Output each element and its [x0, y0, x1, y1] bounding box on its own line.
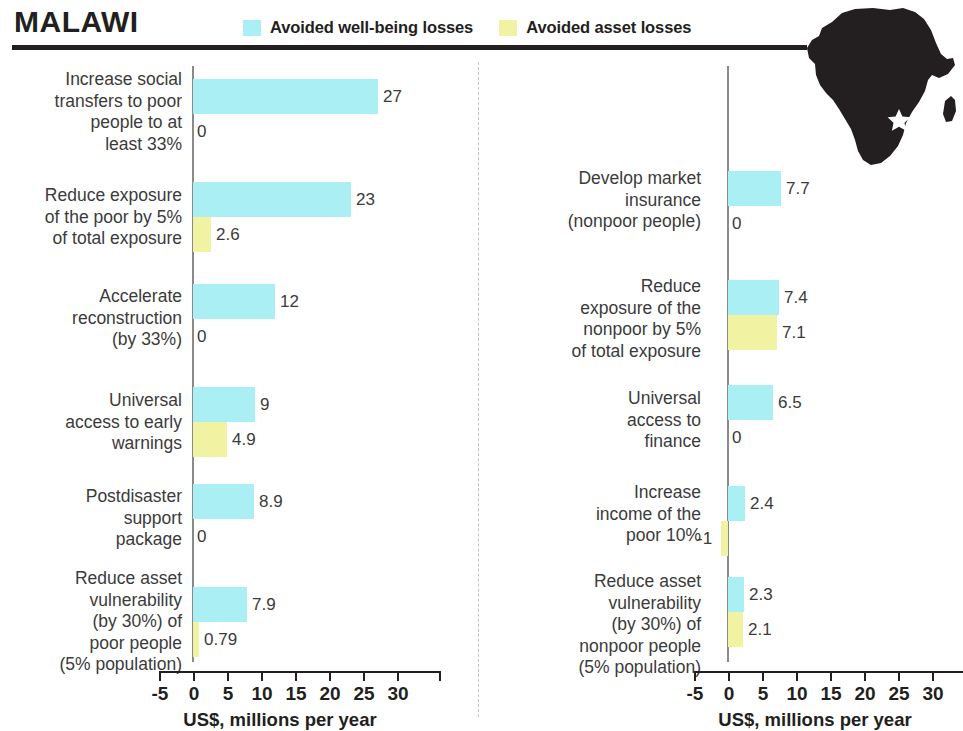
bar-wellbeing	[193, 79, 378, 114]
axis-tick-label: -5	[152, 683, 169, 705]
category-label: Reduce exposure of the nonpoor by 5% of …	[572, 276, 701, 362]
axis-tick	[159, 671, 161, 681]
axis-tick-label: 5	[758, 683, 769, 705]
axis-tick-label: 20	[854, 683, 875, 705]
bar-asset	[193, 622, 199, 657]
category-label: Develop market insurance (nonpoor people…	[568, 168, 701, 233]
bar-value-wellbeing: 2.3	[749, 577, 773, 612]
category-label: Universal access to early warnings	[65, 390, 182, 455]
bar-wellbeing	[728, 171, 781, 206]
bar-asset	[728, 315, 777, 350]
bar-value-wellbeing: 6.5	[778, 385, 802, 420]
axis-tick	[329, 671, 331, 681]
nonpoor-people-plot-area: Develop market insurance (nonpoor people…	[485, 58, 963, 668]
nonpoor-people-panel: Develop market insurance (nonpoor people…	[485, 58, 963, 725]
category-label: Increase social transfers to poor people…	[55, 69, 182, 155]
legend-swatch-asset-icon	[499, 20, 517, 36]
axis-tick-label: -5	[687, 683, 704, 705]
bar-wellbeing	[193, 284, 275, 319]
axis-tick-label: 15	[820, 683, 841, 705]
bar-value-asset: 0	[197, 519, 206, 554]
zero-axis-line-left	[192, 66, 194, 662]
x-axis-left: -5 0 5 10 15 20 25 30 US$, millions per …	[0, 671, 478, 731]
axis-tick-label: 30	[387, 683, 408, 705]
chart-legend: Avoided well-being losses Avoided asset …	[243, 18, 691, 37]
x-axis-right: -5 0 5 10 15 20 25 30 US$, millions per …	[485, 671, 963, 731]
poor-people-plot-area: Increase social transfers to poor people…	[0, 58, 478, 668]
bar-value-wellbeing: 7.9	[252, 587, 276, 622]
bar-wellbeing	[728, 385, 773, 420]
bar-value-asset: 0	[197, 319, 206, 354]
bar-value-asset: 0	[732, 420, 741, 455]
bar-value-asset: 4.9	[232, 422, 256, 457]
bar-value-wellbeing: 23	[356, 182, 375, 217]
bar-value-wellbeing: 2.4	[750, 486, 774, 521]
axis-tick	[295, 671, 297, 681]
axis-tick-label: 5	[223, 683, 234, 705]
axis-tick	[363, 671, 365, 681]
bar-asset-negative	[721, 521, 728, 556]
axis-tick	[932, 671, 934, 681]
axis-tick	[830, 671, 832, 681]
zero-axis-line-right	[727, 66, 729, 662]
bar-value-wellbeing: 9	[260, 387, 269, 422]
axis-tick	[227, 671, 229, 681]
category-label: Reduce exposure of the poor by 5% of tot…	[45, 185, 182, 250]
header-divider-rule	[12, 45, 807, 50]
legend-label-asset: Avoided asset losses	[526, 18, 691, 37]
axis-tick	[762, 671, 764, 681]
axis-tick-label: 20	[319, 683, 340, 705]
bar-value-wellbeing: 8.9	[259, 484, 283, 519]
bar-value-asset: 2.1	[748, 612, 772, 647]
legend-swatch-wellbeing-icon	[243, 20, 261, 36]
legend-label-wellbeing: Avoided well-being losses	[270, 18, 473, 37]
axis-tick	[439, 671, 441, 681]
bar-wellbeing	[728, 577, 744, 612]
bar-asset	[193, 422, 227, 457]
axis-tick-label: 15	[285, 683, 306, 705]
bar-value-wellbeing: 7.4	[784, 280, 808, 315]
bar-asset	[193, 217, 211, 252]
poor-people-panel: Increase social transfers to poor people…	[0, 58, 478, 725]
category-label: Reduce asset vulnerability (by 30%) of n…	[578, 571, 701, 679]
page-title: MALAWI	[14, 5, 139, 39]
axis-tick	[898, 671, 900, 681]
axis-tick	[864, 671, 866, 681]
poor-people-category-labels: Increase social transfers to poor people…	[6, 58, 182, 668]
axis-tick-label: 25	[353, 683, 374, 705]
axis-tick-label: 0	[189, 683, 200, 705]
axis-tick-label: 0	[724, 683, 735, 705]
category-label: Universal access to finance	[627, 388, 701, 453]
bar-wellbeing	[193, 387, 255, 422]
bar-value-wellbeing: 12	[280, 284, 299, 319]
axis-tick	[261, 671, 263, 681]
axis-tick	[193, 671, 195, 681]
axis-tick	[694, 671, 696, 681]
bar-value-wellbeing: 7.7	[786, 171, 810, 206]
x-axis-title: US$, millions per year	[718, 709, 911, 731]
axis-tick	[796, 671, 798, 681]
axis-tick-label: 10	[786, 683, 807, 705]
panel-divider	[478, 62, 479, 717]
axis-tick-label: 25	[888, 683, 909, 705]
bar-wellbeing	[728, 486, 745, 521]
bar-wellbeing	[728, 280, 779, 315]
bar-value-asset: 0.79	[204, 622, 237, 657]
bar-wellbeing	[193, 484, 254, 519]
legend-item-wellbeing: Avoided well-being losses	[243, 18, 473, 37]
category-label: Accelerate reconstruction (by 33%)	[72, 286, 182, 351]
axis-tick	[397, 671, 399, 681]
axis-tick	[728, 671, 730, 681]
category-label: Increase income of the poor 10%	[596, 482, 701, 547]
x-axis-title: US$, millions per year	[183, 709, 376, 731]
bar-asset	[728, 612, 743, 647]
bar-value-asset: 2.6	[216, 217, 240, 252]
bar-value-asset: 0	[732, 206, 741, 241]
category-label: Postdisaster support package	[86, 486, 182, 551]
bar-value-asset: 7.1	[782, 315, 806, 350]
legend-item-asset: Avoided asset losses	[499, 18, 691, 37]
nonpoor-people-category-labels: Develop market insurance (nonpoor people…	[525, 58, 701, 668]
category-label: Reduce asset vulnerability (by 30%) of p…	[59, 568, 182, 676]
bar-value-wellbeing: 27	[383, 79, 402, 114]
axis-tick-label: 30	[922, 683, 943, 705]
